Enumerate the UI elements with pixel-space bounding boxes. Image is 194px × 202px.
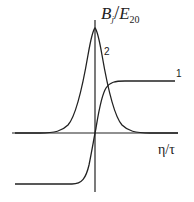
y-axis-label: Bj/E20 [101, 2, 140, 25]
diagram-canvas [0, 0, 194, 202]
x-axis-label: η/τ [158, 142, 175, 158]
curve-1-label: 1 [176, 68, 182, 79]
curve-2-label: 2 [104, 46, 110, 57]
